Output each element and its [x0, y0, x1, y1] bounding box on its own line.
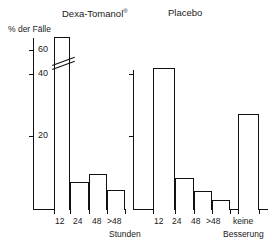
right-cat-label-48: 48	[191, 217, 200, 226]
right-cat-label-keine: keine	[233, 217, 253, 226]
x-axis-label-stunden: Stunden	[109, 230, 141, 239]
left-cat-label-24: 24	[73, 217, 82, 226]
right-xtick-5	[230, 209, 231, 214]
left-ytick-label-60: 60	[38, 45, 48, 54]
right-xtick-7	[259, 209, 260, 214]
right-xtick-2	[175, 209, 176, 214]
right-y-axis-line	[133, 70, 134, 210]
left-cat-label-12: 12	[55, 217, 64, 226]
right-xtick-3	[194, 209, 195, 214]
right-cat-label-gt48: >48	[206, 217, 220, 226]
group-title-placebo: Placebo	[168, 8, 202, 18]
right-xtick-6	[238, 209, 239, 214]
y-axis-label: % der Fälle	[8, 25, 51, 34]
left-ytick-label-40: 40	[38, 69, 48, 78]
chart-figure: Dexa-Tomanol® Placebo % der Fälle 60 40 …	[0, 0, 272, 243]
left-cat-label-gt48: >48	[107, 217, 121, 226]
left-cat-label-48: 48	[92, 217, 101, 226]
left-ytick-20	[29, 136, 34, 137]
left-xtick-4	[107, 209, 108, 214]
bar-placebo-12	[153, 68, 175, 210]
bar-placebo-keine-besserung	[238, 114, 259, 210]
left-xtick-2	[70, 209, 71, 214]
axis-break-icon	[51, 50, 75, 70]
registered-trademark-icon: ®	[123, 8, 127, 14]
right-ytick-40	[129, 74, 134, 75]
bar-placebo-24	[175, 178, 194, 210]
left-ytick-60	[29, 50, 34, 51]
right-cat-label-12: 12	[154, 217, 163, 226]
left-xtick-1	[54, 209, 55, 214]
right-ytick-20	[129, 136, 134, 137]
bar-dexa-24	[70, 182, 89, 210]
bar-dexa-gt48	[107, 190, 125, 210]
right-xtick-1	[153, 209, 154, 214]
bar-dexa-48	[89, 174, 107, 210]
group-title-dexa-text: Dexa-Tomanol	[62, 8, 123, 19]
group-title-dexa: Dexa-Tomanol®	[62, 8, 128, 19]
left-ytick-40	[29, 74, 34, 75]
bar-placebo-gt48	[212, 200, 230, 210]
left-xtick-3	[89, 209, 90, 214]
right-xtick-4	[212, 209, 213, 214]
left-ytick-label-20: 20	[38, 131, 48, 140]
left-y-axis-line	[33, 38, 34, 210]
right-cat-label-24: 24	[172, 217, 181, 226]
right-cat-label-besserung: Besserung	[223, 230, 264, 239]
bar-placebo-48	[194, 191, 212, 210]
left-xtick-5	[125, 209, 126, 214]
